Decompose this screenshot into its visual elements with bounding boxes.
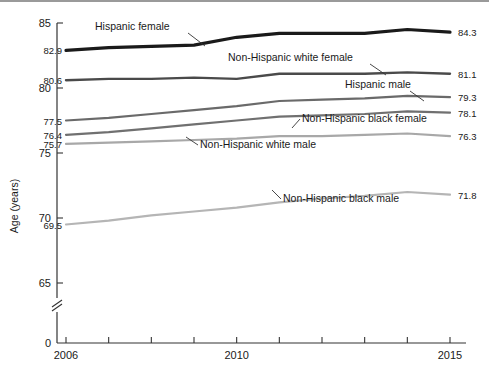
x-tick-label: 2015 xyxy=(438,349,462,361)
axis-break-mark xyxy=(52,304,62,311)
annotation-label-5: Non-Hispanic black male xyxy=(283,192,399,204)
chart-figure: 85807570650Age (years)20062010201582.984… xyxy=(0,0,489,376)
series-start-value-5: 69.5 xyxy=(44,220,63,231)
x-tick-label: 2006 xyxy=(54,349,78,361)
series-start-value-1: 80.6 xyxy=(44,75,63,86)
series-start-value-4: 75.7 xyxy=(44,139,63,150)
series-end-value-0: 84.3 xyxy=(458,27,477,38)
series-end-value-3: 78.1 xyxy=(458,108,477,119)
y-axis-title: Age (years) xyxy=(8,179,20,233)
y-tick-label: 65 xyxy=(39,277,51,289)
annotation-label-1: Non-Hispanic white female xyxy=(228,51,353,63)
annotation-label-4: Non-Hispanic white male xyxy=(200,138,316,150)
series-end-value-2: 79.3 xyxy=(458,92,477,103)
y-tick-label-zero: 0 xyxy=(45,337,51,349)
series-end-value-5: 71.8 xyxy=(458,190,477,201)
series-start-value-2: 77.5 xyxy=(44,116,63,127)
annotation-label-2: Hispanic male xyxy=(345,78,411,90)
annotation-label-0: Hispanic female xyxy=(95,20,170,32)
series-start-value-0: 82.9 xyxy=(44,45,63,56)
line-chart-svg: 85807570650Age (years)20062010201582.984… xyxy=(0,0,489,376)
series-end-value-4: 76.3 xyxy=(458,131,477,142)
annotation-leader-5 xyxy=(272,190,281,199)
x-tick-label: 2010 xyxy=(224,349,248,361)
axis-break-mark xyxy=(52,300,62,307)
annotation-leader-3 xyxy=(292,119,300,128)
series-line-0 xyxy=(66,30,450,51)
annotation-label-3: Non-Hispanic black female xyxy=(302,112,427,124)
series-end-value-1: 81.1 xyxy=(458,69,477,80)
y-tick-label: 85 xyxy=(39,17,51,29)
